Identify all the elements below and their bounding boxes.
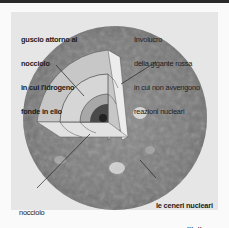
surface-spot [109,162,125,174]
label-line: le ceneri nucleari [156,202,213,210]
label-hydrogen-shell: guscio attorno al nocciolo in cui l'idro… [21,20,77,124]
label-line: nocciolo [19,209,75,217]
label-line: fonde in elio [21,108,77,116]
label-envelope: Involucro della gigante rossa in cui non… [134,20,200,124]
label-core: nocciolo in cui fonde l'elio [19,193,75,228]
surface-spot [145,146,155,154]
label-line: guscio attorno al [21,36,77,44]
carbon-ash-center [99,114,107,122]
label-line: Involucro [134,36,200,44]
label-line: in cui non avvengono [134,84,200,92]
label-ashes: le ceneri nucleari sono costituite di ca… [156,186,213,228]
label-line: in cui l'idrogeno [21,84,77,92]
label-line: sono costituite [156,226,213,228]
label-line: della gigante rossa [134,60,200,68]
label-line: nocciolo [21,60,77,68]
label-line: reazioni nucleari [134,108,200,116]
